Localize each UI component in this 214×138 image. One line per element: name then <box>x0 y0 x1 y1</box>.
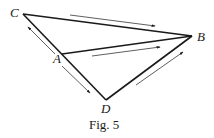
label-b: B <box>197 29 205 44</box>
label-c: C <box>10 5 19 20</box>
arrow-c-b <box>70 15 155 26</box>
edge-c-d <box>23 14 106 100</box>
arrow-d-b <box>136 52 183 85</box>
arrow-a-c <box>28 27 55 54</box>
edge-c-b <box>23 14 192 36</box>
label-d: D <box>100 101 111 116</box>
triangle-diagram: C B A D Fig. 5 <box>0 0 214 138</box>
label-a: A <box>52 51 61 66</box>
figure-caption: Fig. 5 <box>89 117 119 132</box>
